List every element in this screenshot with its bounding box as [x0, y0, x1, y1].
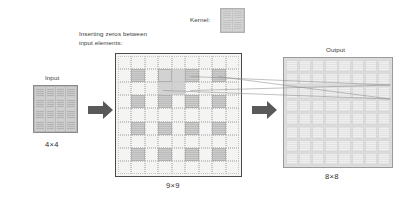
grid-cell — [118, 108, 131, 121]
grid-cell — [158, 148, 171, 161]
grid-cell — [145, 135, 158, 148]
grid-cell — [212, 95, 225, 108]
grid-cell — [199, 161, 212, 174]
grid-cell — [185, 161, 198, 174]
grid-cell — [56, 87, 66, 97]
grid-cell — [172, 148, 185, 161]
grid-cell — [222, 21, 232, 31]
grid-cell — [365, 126, 377, 139]
grid-cell — [145, 122, 158, 135]
grid-cell — [226, 135, 239, 148]
grid-cell — [299, 153, 311, 166]
grid-cell — [212, 56, 225, 69]
grid-cell — [365, 73, 377, 86]
grid-cell — [312, 113, 324, 126]
grid-cell — [325, 86, 337, 99]
grid-cell — [226, 108, 239, 121]
grid-cell — [158, 108, 171, 121]
grid-cell — [352, 140, 364, 153]
zero-inserted-caption: Inserting zeros between input elements: — [79, 30, 147, 48]
grid-cell — [378, 153, 390, 166]
grid-cell — [226, 161, 239, 174]
grid-cell — [158, 56, 171, 69]
grid-cell — [378, 140, 390, 153]
grid-cell-highlighted — [172, 82, 185, 95]
grid-cell — [325, 100, 337, 113]
grid-cell — [158, 122, 171, 135]
grid-cell — [299, 60, 311, 73]
grid-cell — [172, 56, 185, 69]
figure-canvas: Kernel: Input 4×4 Inserting zeros betwee… — [0, 0, 413, 200]
grid-cell — [312, 86, 324, 99]
input-caption: Input — [45, 74, 59, 81]
output-grid — [283, 57, 393, 168]
grid-cell — [365, 60, 377, 73]
grid-cell — [185, 135, 198, 148]
grid-cell — [118, 56, 131, 69]
grid-cell — [172, 95, 185, 108]
grid-cell — [66, 87, 76, 97]
grid-cell — [378, 113, 390, 126]
grid-cell — [199, 82, 212, 95]
grid-cell — [338, 113, 350, 126]
grid-cell — [365, 140, 377, 153]
grid-cell — [212, 161, 225, 174]
grid-cell — [131, 56, 144, 69]
grid-cell — [286, 113, 298, 126]
grid-cell — [325, 113, 337, 126]
grid-cell — [299, 73, 311, 86]
grid-cell — [199, 56, 212, 69]
grid-cell — [46, 87, 56, 97]
grid-cell — [199, 122, 212, 135]
grid-cell — [199, 135, 212, 148]
grid-cell — [299, 126, 311, 139]
grid-cell — [352, 100, 364, 113]
grid-cell — [299, 100, 311, 113]
grid-cell — [185, 82, 198, 95]
grid-cell — [286, 126, 298, 139]
grid-cell — [312, 153, 324, 166]
grid-cell — [312, 60, 324, 73]
grid-cell — [365, 86, 377, 99]
grid-cell — [158, 161, 171, 174]
grid-cell — [172, 122, 185, 135]
grid-cell — [312, 100, 324, 113]
grid-cell — [352, 73, 364, 86]
grid-cell — [66, 109, 76, 119]
grid-cell — [312, 73, 324, 86]
grid-cell — [226, 95, 239, 108]
grid-cell — [118, 95, 131, 108]
grid-cell — [199, 148, 212, 161]
grid-cell — [145, 69, 158, 82]
grid-cell — [118, 82, 131, 95]
grid-cell — [35, 98, 45, 108]
grid-cell — [131, 108, 144, 121]
grid-cell — [365, 153, 377, 166]
grid-cell — [145, 56, 158, 69]
grid-cell — [338, 100, 350, 113]
grid-cell — [35, 109, 45, 119]
grid-cell — [226, 122, 239, 135]
grid-cell — [172, 161, 185, 174]
arrow-zero-inserted-to-output — [252, 100, 278, 120]
grid-cell — [131, 69, 144, 82]
grid-cell — [226, 148, 239, 161]
grid-cell — [286, 60, 298, 73]
grid-cell — [299, 140, 311, 153]
grid-cell-highlighted — [158, 69, 171, 82]
grid-cell — [46, 109, 56, 119]
grid-cell — [35, 87, 45, 97]
grid-cell — [222, 10, 232, 20]
arrow-input-to-zero-inserted — [88, 100, 114, 120]
grid-cell — [185, 95, 198, 108]
grid-cell — [338, 73, 350, 86]
input-dimension-label: 4×4 — [45, 140, 59, 149]
grid-cell — [226, 82, 239, 95]
grid-cell — [325, 60, 337, 73]
grid-cell — [212, 69, 225, 82]
grid-cell — [352, 60, 364, 73]
grid-cell — [185, 69, 198, 82]
input-grid — [33, 85, 78, 133]
grid-cell — [286, 73, 298, 86]
grid-cell — [199, 69, 212, 82]
